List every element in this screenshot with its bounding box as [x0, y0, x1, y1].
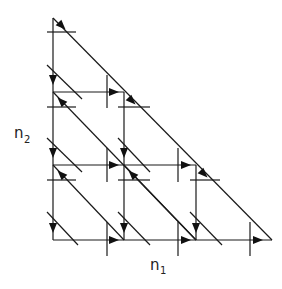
arrow-down-c0-r2: [49, 148, 57, 158]
arrow-down-c2-r3: [192, 223, 200, 233]
arrow-down-c1-r2: [120, 148, 128, 158]
arrow-right-r3b: [181, 236, 191, 244]
lattice-diagram: n 2 n 1: [0, 0, 282, 289]
arrow-down-c0-r3: [49, 223, 57, 233]
flow-arrows: [49, 20, 263, 244]
n2-label-subscript: 2: [24, 134, 30, 145]
hypotenuse-line: [53, 18, 272, 240]
axis-label-n2: n 2: [14, 124, 30, 145]
arrow-right-r1: [109, 88, 119, 96]
arrow-down-c1-r3: [120, 223, 128, 233]
n2-label-text: n: [14, 124, 24, 142]
arrow-right-r2a: [109, 161, 119, 169]
n1-label-subscript: 1: [160, 265, 166, 276]
arrow-down-c0-r1: [49, 75, 57, 85]
arrow-right-r3a: [109, 236, 119, 244]
arrow-right-r2b: [181, 161, 191, 169]
arrow-right-r3c: [253, 236, 263, 244]
axis-label-n1: n 1: [150, 256, 166, 276]
arrow-diag-top: [56, 20, 66, 30]
lattice-lines: [47, 18, 272, 256]
n1-label-text: n: [150, 256, 160, 274]
